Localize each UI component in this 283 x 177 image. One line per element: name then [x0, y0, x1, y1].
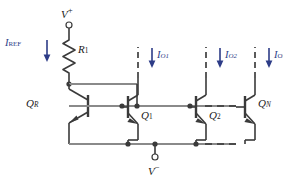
transistor-q2-label: Q2 [209, 110, 221, 121]
current-arrow-iref [44, 40, 51, 62]
junction-base-q2 [187, 103, 192, 108]
circuit-diagram: V+ IREF R1 QR IO1 IO2 ION Q1 Q2 QN V− [0, 0, 283, 177]
transistor-q1-label: Q1 [141, 110, 153, 121]
transistor-q2 [190, 78, 206, 144]
resistor-r1-label: R1 [78, 44, 88, 55]
current-arrow-ion [266, 48, 273, 68]
transistor-qn-label: QN [258, 98, 271, 109]
v-plus-label: V+ [61, 6, 73, 20]
transistor-q1 [122, 78, 138, 144]
ion-label: ION [274, 50, 283, 61]
transistor-qr-label: QR [26, 98, 38, 109]
transistor-qr [69, 84, 88, 144]
io2-label: IO2 [225, 50, 237, 61]
iref-label: IREF [5, 38, 21, 49]
v-minus-terminal-node [152, 154, 158, 160]
current-arrow-io2 [217, 48, 224, 68]
circuit-schematic-canvas [0, 0, 283, 177]
junction-base-q1 [119, 103, 124, 108]
v-plus-terminal-node [66, 22, 72, 28]
v-minus-label: V− [148, 163, 160, 177]
junction-base-feedback [134, 103, 139, 108]
io1-label: IO1 [157, 50, 169, 61]
transistor-qn [236, 78, 255, 144]
current-arrow-io1 [149, 48, 156, 68]
resistor-r1-symbol [63, 36, 75, 80]
